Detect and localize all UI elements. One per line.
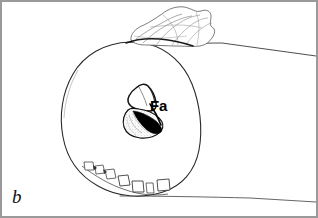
figure-panel: b Fa	[0, 0, 318, 218]
tooth-4	[118, 175, 130, 186]
panel-letter: b	[12, 186, 22, 208]
structure-abbreviation-fa: Fa	[150, 98, 167, 114]
tooth-5	[132, 181, 144, 192]
tooth-3	[105, 169, 116, 179]
tooth-1	[84, 162, 94, 170]
crumpled-tissue-flap	[126, 7, 215, 47]
lower-guide-line	[120, 196, 316, 202]
tooth-7	[157, 179, 170, 191]
tooth-6	[146, 183, 154, 193]
